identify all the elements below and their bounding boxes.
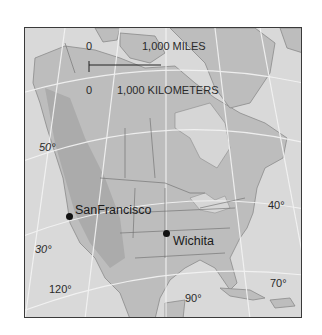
scale-miles-label: 1,000 MILES (142, 41, 206, 52)
city-label-san-francisco: SanFrancisco (75, 204, 151, 217)
latitude-label-50: 50° (39, 142, 56, 153)
map-frame: 0 1,000 MILES 0 1,000 KILOMETERS 50° 40°… (24, 27, 302, 318)
latitude-label-30: 30° (35, 244, 52, 255)
longitude-label-120: 120° (49, 284, 72, 295)
city-marker-san-francisco (66, 213, 73, 220)
longitude-label-90: 90° (185, 293, 202, 304)
city-label-wichita: Wichita (173, 235, 214, 248)
scale-km-label: 1,000 KILOMETERS (117, 85, 219, 96)
scale-miles-zero: 0 (86, 41, 92, 52)
longitude-label-70: 70° (270, 278, 287, 289)
city-marker-wichita (163, 230, 170, 237)
latitude-label-40: 40° (268, 200, 285, 211)
scale-km-zero: 0 (86, 85, 92, 96)
map-canvas (25, 28, 302, 318)
